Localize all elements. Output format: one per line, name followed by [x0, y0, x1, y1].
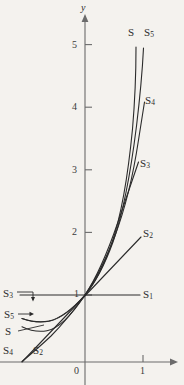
curve-label-s5-top-sub: 5 — [150, 30, 154, 39]
y-axis-arrowhead — [82, 14, 89, 22]
curve-label-s3-left-sub: 3 — [9, 291, 13, 300]
curve-label-s4-left-sub: 4 — [9, 348, 13, 357]
curve-label-s1-right: S1 — [143, 289, 153, 301]
x-tick-label-1: 1 — [140, 366, 145, 376]
curve-label-s4-left: S4 — [3, 345, 13, 357]
curve-label-s3-left: S3 — [3, 288, 13, 300]
curve-label-s4-right-sub: 4 — [151, 98, 155, 107]
y-tick-label-3: 3 — [72, 165, 77, 175]
origin-label: 0 — [74, 366, 79, 376]
curve-label-s-left: S — [5, 326, 11, 337]
y-tick-marks — [85, 45, 92, 295]
curve-s3 — [22, 162, 139, 331]
x-axis-arrowhead — [170, 359, 178, 366]
curve-s-exponential — [22, 47, 136, 322]
curve-label-s2-left-sub: 2 — [39, 348, 43, 357]
y-tick-label-4: 4 — [72, 102, 77, 112]
y-tick-label-1: 1 — [74, 289, 79, 299]
curve-label-s-top-text: S — [128, 26, 134, 38]
curve-label-s3-right: S3 — [140, 158, 150, 170]
curve-label-s3-right-sub: 3 — [146, 161, 150, 170]
curve-label-s5-left-sub: 5 — [10, 312, 14, 321]
leader-s3 — [17, 292, 33, 300]
curve-label-s-top: S — [128, 27, 134, 38]
curve-label-s5-top: S5 — [144, 27, 154, 39]
y-tick-label-2: 2 — [72, 227, 77, 237]
taylor-series-plot — [0, 0, 184, 385]
leader-s3-arrow — [31, 297, 35, 302]
curve-label-s2-left: S2 — [33, 345, 43, 357]
y-axis-label: y — [81, 3, 85, 13]
curve-label-s4-right: S4 — [145, 95, 155, 107]
curve-label-s1-right-sub: 1 — [149, 292, 153, 301]
curve-label-s2-right: S2 — [143, 228, 153, 240]
y-tick-label-5: 5 — [72, 40, 77, 50]
label-leader-lines — [17, 292, 44, 331]
curve-label-s-left-text: S — [5, 325, 11, 337]
curve-label-s5-left: S5 — [4, 309, 14, 321]
leader-s5-arrow — [30, 312, 35, 316]
curve-label-s2-right-sub: 2 — [149, 231, 153, 240]
